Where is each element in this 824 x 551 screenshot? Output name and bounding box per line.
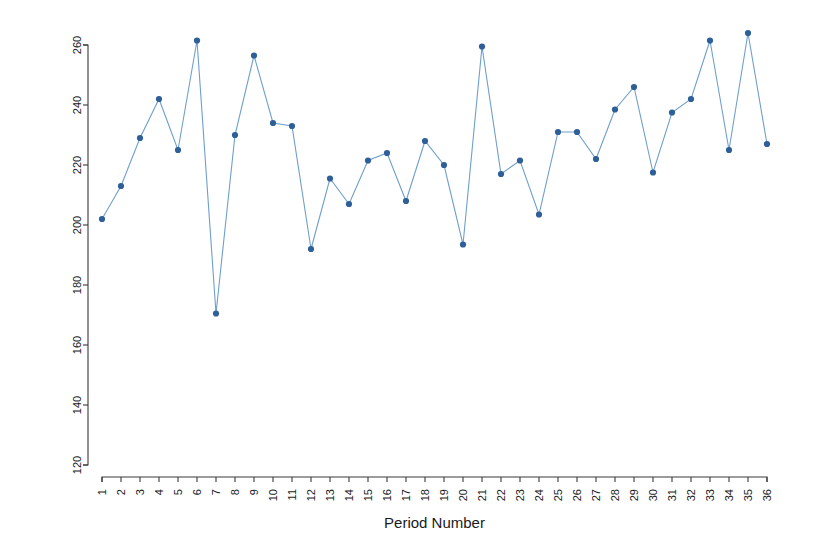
x-axis-title: Period Number — [384, 514, 485, 531]
x-tick-label: 28 — [609, 489, 621, 501]
y-tick-label: 180 — [71, 276, 83, 294]
y-tick-label: 160 — [71, 336, 83, 354]
data-point — [574, 129, 580, 135]
y-axis: 120140160180200220240260 — [71, 36, 88, 474]
x-tick-label: 12 — [305, 489, 317, 501]
data-point — [403, 198, 409, 204]
x-tick-label: 23 — [514, 489, 526, 501]
y-tick-label: 200 — [71, 216, 83, 234]
data-point — [99, 216, 105, 222]
data-series — [99, 30, 770, 317]
x-tick-label: 25 — [552, 489, 564, 501]
data-point — [707, 37, 713, 43]
x-tick-label: 33 — [704, 489, 716, 501]
y-tick-label: 240 — [71, 96, 83, 114]
data-point — [289, 123, 295, 129]
x-tick-label: 30 — [647, 489, 659, 501]
x-tick-label: 27 — [590, 489, 602, 501]
data-point — [118, 183, 124, 189]
data-point — [726, 147, 732, 153]
data-point — [669, 109, 675, 115]
x-tick-label: 4 — [153, 489, 165, 495]
data-point — [631, 84, 637, 90]
data-point — [308, 246, 314, 252]
x-tick-label: 21 — [476, 489, 488, 501]
data-point — [536, 211, 542, 217]
data-point — [422, 138, 428, 144]
series-polyline — [102, 33, 767, 314]
x-tick-label: 20 — [457, 489, 469, 501]
x-tick-label: 11 — [286, 489, 298, 500]
y-tick-label: 260 — [71, 36, 83, 54]
x-tick-label: 26 — [571, 489, 583, 501]
x-tick-label: 5 — [172, 489, 184, 495]
x-tick-label: 24 — [533, 489, 545, 501]
x-tick-label: 22 — [495, 489, 507, 501]
y-tick-label: 140 — [71, 396, 83, 414]
data-point — [384, 150, 390, 156]
data-point — [251, 52, 257, 58]
x-tick-label: 10 — [267, 489, 279, 501]
data-point — [498, 171, 504, 177]
data-point — [555, 129, 561, 135]
x-tick-label: 29 — [628, 489, 640, 501]
data-point — [688, 96, 694, 102]
data-point — [327, 175, 333, 181]
x-tick-label: 19 — [438, 489, 450, 501]
x-tick-label: 36 — [761, 489, 773, 501]
x-tick-label: 2 — [115, 489, 127, 495]
data-point — [593, 156, 599, 162]
x-axis-line — [102, 477, 767, 482]
data-point — [156, 96, 162, 102]
data-point — [650, 169, 656, 175]
x-tick-label: 18 — [419, 489, 431, 501]
chart-container: 120140160180200220240260 123456789101112… — [0, 0, 824, 551]
data-point — [194, 37, 200, 43]
data-point — [745, 30, 751, 36]
data-point — [460, 241, 466, 247]
y-axis-line — [83, 45, 88, 465]
data-point — [270, 120, 276, 126]
x-tick-label: 17 — [400, 489, 412, 501]
x-tick-label: 1 — [96, 489, 108, 495]
x-tick-label: 6 — [191, 489, 203, 495]
data-point — [479, 43, 485, 49]
data-point — [213, 310, 219, 316]
x-tick-label: 7 — [210, 489, 222, 495]
x-tick-label: 16 — [381, 489, 393, 501]
data-point — [764, 141, 770, 147]
x-tick-label: 3 — [134, 489, 146, 495]
data-point — [365, 157, 371, 163]
x-tick-label: 13 — [324, 489, 336, 501]
x-axis: 1234567891011121314151617181920212223242… — [96, 477, 773, 501]
data-point — [232, 132, 238, 138]
x-tick-label: 14 — [343, 489, 355, 501]
x-tick-label: 15 — [362, 489, 374, 501]
y-tick-label: 120 — [71, 456, 83, 474]
x-tick-label: 32 — [685, 489, 697, 501]
data-point — [137, 135, 143, 141]
x-tick-label: 34 — [723, 489, 735, 501]
data-point — [612, 106, 618, 112]
data-point — [175, 147, 181, 153]
x-tick-label: 35 — [742, 489, 754, 501]
x-tick-label: 9 — [248, 489, 260, 495]
data-point — [441, 162, 447, 168]
x-tick-label: 31 — [666, 489, 678, 501]
x-tick-label: 8 — [229, 489, 241, 495]
data-point — [517, 157, 523, 163]
data-point — [346, 201, 352, 207]
line-chart: 120140160180200220240260 123456789101112… — [0, 0, 824, 551]
y-tick-label: 220 — [71, 156, 83, 174]
